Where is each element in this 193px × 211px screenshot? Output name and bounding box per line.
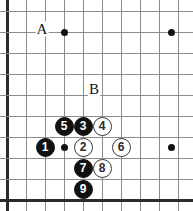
grid-line-horizontal-9 <box>0 179 193 180</box>
stone-5-number: 5 <box>61 120 68 132</box>
star-point-top-right <box>168 29 175 36</box>
stone-1-number: 1 <box>42 141 49 153</box>
stone-1: 1 <box>36 138 55 157</box>
grid-line-horizontal-8 <box>0 158 193 159</box>
stone-3-number: 3 <box>80 120 87 132</box>
stone-4: 4 <box>93 117 112 136</box>
grid-line-horizontal-4 <box>0 74 193 75</box>
stone-7-number: 7 <box>80 162 87 174</box>
stone-8-number: 8 <box>99 162 106 174</box>
grid-line-horizontal-3 <box>0 53 193 54</box>
stone-2-number: 2 <box>80 141 87 153</box>
star-point-center-left <box>61 144 68 151</box>
grid-line-horizontal-2 <box>0 32 193 33</box>
grid-line-horizontal-7 <box>0 137 193 138</box>
stone-3: 3 <box>74 117 93 136</box>
star-point-top-left <box>61 29 68 36</box>
grid-line-horizontal-10 <box>0 199 193 202</box>
go-board-diagram: AB 123456789 <box>0 0 193 211</box>
label-b: B <box>88 82 100 97</box>
stone-9-number: 9 <box>80 183 87 195</box>
stone-7: 7 <box>74 159 93 178</box>
stone-5: 5 <box>55 117 74 136</box>
grid-line-horizontal-6 <box>0 116 193 117</box>
stone-4-number: 4 <box>99 120 106 132</box>
star-point-center-right <box>168 144 175 151</box>
stone-6: 6 <box>112 138 131 157</box>
label-a: A <box>36 22 49 37</box>
stone-8: 8 <box>93 159 112 178</box>
stone-9: 9 <box>74 180 93 199</box>
stone-2: 2 <box>74 138 93 157</box>
stone-6-number: 6 <box>118 141 125 153</box>
grid-line-horizontal-1 <box>0 11 193 12</box>
